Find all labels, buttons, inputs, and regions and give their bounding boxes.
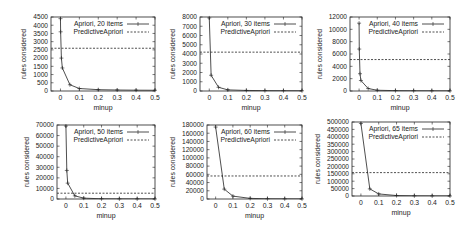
- y-axis-label: rules considered: [314, 134, 321, 184]
- y-tick-label: 140000: [182, 138, 204, 145]
- y-tick-label: 6000: [182, 32, 197, 39]
- x-tick-label: 0: [207, 94, 211, 101]
- x-tick-label: 0.1: [223, 94, 233, 101]
- y-tick-label: 350000: [327, 141, 349, 148]
- x-tick-label: 0.4: [427, 94, 437, 101]
- x-tick-label: 0.4: [279, 94, 289, 101]
- x-tick-label: 0.2: [242, 94, 252, 101]
- y-tick-label: 4000: [33, 22, 48, 29]
- y-tick-label: 0: [200, 195, 204, 202]
- legend: Apriori, 65 itemsPredictiveApriori: [369, 125, 444, 141]
- x-tick-label: 0.2: [97, 202, 107, 209]
- x-tick-label: 0: [59, 94, 63, 101]
- legend: Apriori, 50 itemsPredictiveApriori: [74, 128, 149, 144]
- x-tick-label: 0.2: [391, 94, 401, 101]
- y-tick-label: 3000: [182, 60, 197, 67]
- y-tick-label: 20000: [36, 174, 55, 181]
- x-axis-label: minup: [96, 212, 115, 220]
- legend-entry-label: PredictiveApriori: [369, 133, 419, 141]
- y-tick-label: 4000: [182, 50, 197, 57]
- chart-panel-5: 0200004000060000800001000001200001400001…: [169, 121, 307, 220]
- x-tick-label: 0.5: [445, 199, 455, 206]
- y-axis-label: rules considered: [316, 29, 323, 79]
- x-tick-label: 0.2: [245, 202, 255, 209]
- y-tick-label: 60000: [36, 132, 55, 139]
- y-tick-label: 3000: [33, 38, 48, 45]
- y-tick-label: 160000: [182, 130, 204, 137]
- x-tick-label: 0.4: [131, 94, 141, 101]
- y-axis-label: rules considered: [23, 137, 30, 187]
- x-tick-label: 0.4: [132, 202, 142, 209]
- figure: 05001000150020002500300035004000450000.1…: [0, 0, 473, 230]
- x-tick-label: 0.3: [112, 94, 122, 101]
- x-axis-label: minup: [390, 104, 409, 112]
- chart-panel-1: 05001000150020002500300035004000450000.1…: [20, 13, 160, 112]
- y-tick-label: 0: [50, 195, 54, 202]
- y-tick-label: 100000: [327, 178, 349, 185]
- legend-entry-label: Apriori, 20 items: [74, 20, 124, 28]
- x-axis-label: minup: [245, 212, 264, 220]
- x-tick-label: 0.3: [263, 202, 273, 209]
- legend-entry-label: Apriori, 65 items: [369, 125, 419, 133]
- x-tick-label: 0.5: [297, 94, 307, 101]
- x-tick-label: 0: [357, 94, 361, 101]
- y-tick-label: 150000: [327, 170, 349, 177]
- legend: Apriori, 30 itemsPredictiveApriori: [221, 20, 296, 36]
- x-tick-label: 0.5: [150, 94, 160, 101]
- y-tick-label: 0: [343, 87, 347, 94]
- x-tick-label: 0: [359, 199, 363, 206]
- x-tick-label: 0.3: [115, 202, 125, 209]
- y-tick-label: 6000: [332, 50, 347, 57]
- x-axis-label: minup: [241, 104, 260, 112]
- legend: Apriori, 20 itemsPredictiveApriori: [74, 20, 149, 36]
- y-tick-label: 60000: [186, 171, 205, 178]
- y-tick-label: 8000: [332, 38, 347, 45]
- y-tick-label: 250000: [327, 155, 349, 162]
- legend-entry-label: Apriori, 50 items: [74, 128, 124, 136]
- legend: Apriori, 60 itemsPredictiveApriori: [221, 128, 296, 144]
- chart-panel-2: 01000200030004000500060007000800000.10.2…: [169, 13, 307, 112]
- y-tick-label: 4500: [33, 13, 48, 20]
- x-tick-label: 0.1: [374, 199, 384, 206]
- legend-entry-label: Apriori, 60 items: [221, 128, 271, 136]
- y-tick-label: 3500: [33, 30, 48, 37]
- x-axis-label: minup: [93, 104, 112, 112]
- chart-panel-4: 01000020000300004000050000600007000000.1…: [23, 121, 160, 220]
- x-tick-label: 0.5: [297, 202, 307, 209]
- chart-grid: 05001000150020002500300035004000450000.1…: [0, 0, 473, 230]
- y-axis-label: rules considered: [20, 29, 27, 79]
- y-tick-label: 40000: [186, 179, 205, 186]
- legend-entry-label: PredictiveApriori: [74, 136, 124, 144]
- y-tick-label: 8000: [182, 13, 197, 20]
- x-tick-label: 0.1: [228, 202, 238, 209]
- x-tick-label: 0.1: [79, 202, 89, 209]
- y-tick-label: 12000: [329, 13, 348, 20]
- y-tick-label: 0: [193, 87, 197, 94]
- y-axis-label: rules considered: [169, 29, 176, 79]
- y-tick-label: 40000: [36, 153, 55, 160]
- y-tick-label: 30000: [36, 164, 55, 171]
- x-tick-label: 0: [64, 202, 68, 209]
- legend: Apriori, 40 itemsPredictiveApriori: [369, 20, 444, 36]
- x-tick-label: 0.5: [150, 202, 160, 209]
- x-tick-label: 0.1: [373, 94, 383, 101]
- x-tick-label: 0.4: [280, 202, 290, 209]
- legend-entry-label: Apriori, 30 items: [221, 20, 271, 28]
- y-tick-label: 0: [345, 192, 349, 199]
- y-tick-label: 2500: [33, 46, 48, 53]
- y-tick-label: 180000: [182, 121, 204, 128]
- y-tick-label: 200000: [327, 163, 349, 170]
- y-tick-label: 50000: [331, 185, 350, 192]
- x-tick-label: 0.1: [75, 94, 85, 101]
- y-tick-label: 120000: [182, 146, 204, 153]
- x-tick-label: 0.5: [445, 94, 455, 101]
- y-tick-label: 500000: [327, 118, 349, 125]
- x-tick-label: 0.2: [392, 199, 402, 206]
- y-tick-label: 450000: [327, 126, 349, 133]
- chart-panel-3: 02000400060008000100001200000.10.20.30.4…: [316, 13, 455, 112]
- y-tick-label: 10000: [36, 185, 55, 192]
- x-tick-label: 0.3: [260, 94, 270, 101]
- x-tick-label: 0.3: [409, 94, 419, 101]
- y-tick-label: 1000: [33, 71, 48, 78]
- legend-entry-label: PredictiveApriori: [74, 28, 124, 36]
